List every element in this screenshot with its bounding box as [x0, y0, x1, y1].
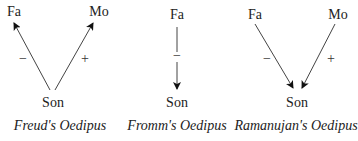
- ramanujan-plus-sign: +: [327, 52, 335, 66]
- freud-son-label: Son: [42, 96, 64, 110]
- ramanujan-minus-sign: −: [263, 52, 271, 66]
- freud-caption: Freud's Oedipus: [14, 119, 106, 133]
- freud-minus-sign: −: [19, 52, 27, 66]
- fromm-caption: Fromm's Oedipus: [127, 119, 226, 133]
- ramanujan-caption: Ramanujan's Oedipus: [234, 119, 357, 133]
- ramanujan-son-label: Son: [286, 96, 308, 110]
- ramanujan-mother-label: Mo: [328, 8, 347, 22]
- freud-plus-sign: +: [81, 52, 89, 66]
- ramanujan-father-label: Fa: [248, 8, 262, 22]
- arrow-father-to-son: [255, 24, 293, 88]
- freud-mother-label: Mo: [89, 5, 108, 19]
- freud-father-label: Fa: [7, 5, 21, 19]
- fromm-father-label: Fa: [170, 8, 184, 22]
- fromm-son-label: Son: [166, 96, 188, 110]
- fromm-minus-sign: −: [173, 49, 181, 63]
